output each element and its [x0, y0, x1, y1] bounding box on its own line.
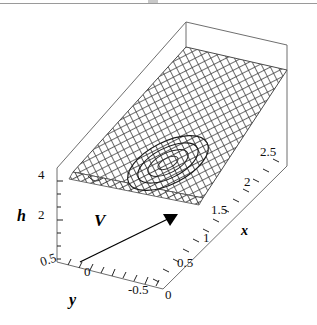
velocity-label: V	[94, 212, 105, 229]
x-tick-0p5: 0.5	[177, 256, 193, 269]
axis-label-h: h	[17, 208, 26, 224]
y-tick-m0p5: -0.5	[128, 283, 149, 296]
h-tick-2: 2	[38, 208, 45, 221]
x-tick-2: 2	[244, 175, 251, 188]
h-axis-ticks	[57, 181, 63, 259]
plot-canvas	[0, 0, 317, 325]
h-tick-4: 4	[38, 168, 45, 181]
figure-3d-surface-plot: 4 2 h 0.5 0 -0.5 y 0 0.5 1 1.5 2 2.5 x V	[0, 0, 317, 325]
x-tick-1p5: 1.5	[211, 203, 227, 216]
x-tick-1: 1	[203, 231, 210, 244]
x-tick-2p5: 2.5	[260, 145, 276, 158]
axis-label-y: y	[69, 292, 76, 308]
axis-label-x: x	[241, 224, 248, 238]
y-tick-0: 0	[84, 265, 91, 278]
x-tick-0: 0	[165, 288, 172, 301]
